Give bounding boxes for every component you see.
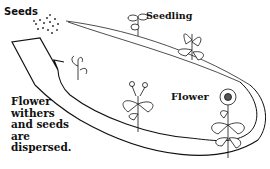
cycle-arrow-head <box>12 38 64 85</box>
seeds-label: Seeds <box>4 6 38 17</box>
withered-flower-icon <box>72 56 87 80</box>
flower-label: Flower <box>171 91 209 102</box>
cycle-band-right-outer <box>250 85 266 140</box>
cycle-band-upper-inner <box>68 22 240 82</box>
seeds-icon <box>33 14 59 34</box>
seedling-label: Seedling <box>146 10 192 21</box>
withers-line-3: and seeds <box>11 119 91 131</box>
sunflower-icon <box>212 89 245 158</box>
withers-line-5: dispersed. <box>11 142 91 154</box>
withers-caption: Flower withers and seeds are dispersed. <box>11 96 91 154</box>
withers-line-1: Flower <box>11 96 91 108</box>
young-plant-icon <box>178 34 203 60</box>
seedling-icon <box>128 14 148 36</box>
